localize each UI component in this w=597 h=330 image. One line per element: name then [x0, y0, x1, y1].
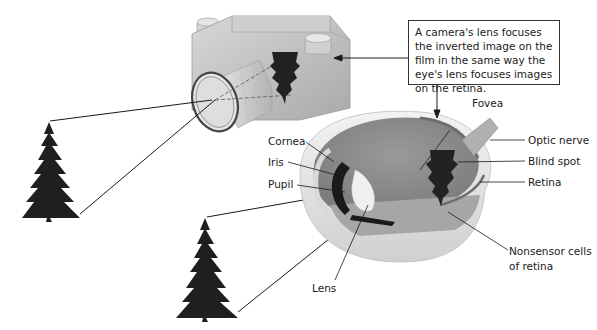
- camera: [185, 16, 350, 137]
- label-cornea: Cornea: [268, 135, 305, 147]
- label-iris: Iris: [268, 156, 284, 168]
- label-nonsensor-1: Nonsensor cells: [509, 245, 592, 257]
- tree-bottom: [176, 218, 238, 322]
- label-blind-spot: Blind spot: [528, 155, 580, 167]
- label-nonsensor-2: of retina: [509, 260, 553, 272]
- callout-text: A camera's lens focuses the inverted ima…: [415, 26, 552, 94]
- label-retina: Retina: [528, 176, 561, 188]
- eye: [300, 111, 498, 262]
- label-lens: Lens: [312, 282, 336, 294]
- label-fovea: Fovea: [472, 97, 503, 109]
- label-pupil: Pupil: [268, 178, 293, 190]
- label-optic-nerve: Optic nerve: [528, 134, 589, 146]
- tree-left: [22, 122, 80, 222]
- callout-box: A camera's lens focuses the inverted ima…: [408, 20, 560, 85]
